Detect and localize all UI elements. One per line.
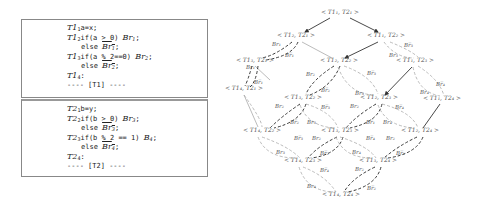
state-node: < T1₃, T2₁ > <box>236 56 274 63</box>
state-node: < T1₄, T2₁ > <box>225 84 263 91</box>
branch-label: Br₄ <box>419 89 429 95</box>
branch-label: Br̅₃ <box>293 135 303 141</box>
branch-label: Br₄ <box>351 149 361 155</box>
branch-label: Br̅₁ <box>365 119 375 125</box>
branch-label: Br₄ <box>306 183 316 189</box>
state-node: < T1₁, T2₃ > <box>396 56 434 63</box>
branch-label: Br₃ <box>388 52 398 58</box>
state-node: < T1₂, T2₄ > <box>401 126 439 133</box>
branch-label: Br₃ <box>275 149 285 155</box>
state-node: < T1₂, T2₁ > <box>277 31 315 38</box>
branch-label: Br̅₃ <box>320 104 330 110</box>
state-node: < T1₃, T2₂ > <box>284 93 322 100</box>
branch-label: Br̅₄ <box>394 104 404 110</box>
state-node: < T1₃, T2₃ > <box>321 126 359 133</box>
branch-label: Br̅₁ <box>253 79 263 85</box>
branch-label: Br₃ <box>306 119 316 125</box>
branch-label: Br₂ <box>311 135 321 141</box>
branch-label: Br̅₃ <box>366 70 376 76</box>
graph-edge-labels: Br₁Br̅₁Br̅₃Br₃Br₁Br̅₁Br₂Br̅₂Br̅₃Br₃Br̅₄B… <box>245 41 445 191</box>
graph-nodes: < T1₁, T2₁ >< T1₂, T2₁ >< T1₁, T2₂ >< T1… <box>225 8 461 197</box>
branch-label: Br₂ <box>305 71 315 77</box>
branch-label: Br̅₄ <box>435 81 445 87</box>
state-node: < T1₁, T2₁ > <box>321 8 359 15</box>
branch-label: Br₃ <box>354 90 364 96</box>
state-node: < T1₂, T2₂ > <box>320 56 358 63</box>
branch-label: Br̅₄ <box>319 167 329 173</box>
branch-label: Br̅₁ <box>284 52 294 58</box>
branch-label: Br̅₂ <box>366 185 376 191</box>
branch-label: Br₂ <box>349 103 359 109</box>
state-node: < T1₁, T2₄ > <box>423 94 461 101</box>
state-node: < T1₄, T2₄ > <box>322 190 360 197</box>
state-node: < T1₄, T2₂ > <box>243 126 281 133</box>
branch-label: Br₁ <box>245 64 255 70</box>
branch-label: Br̅₄ <box>365 135 375 141</box>
state-node: < T1₃, T2₄ > <box>359 156 397 163</box>
interleaving-state-graph: < T1₁, T2₁ >< T1₂, T2₁ >< T1₁, T2₂ >< T1… <box>0 0 480 204</box>
branch-label: Br̅₂ <box>320 87 330 93</box>
branch-label: Br̅₂ <box>289 119 299 125</box>
branch-label: Br₁ <box>271 41 281 47</box>
branch-label: Br̅₃ <box>403 42 413 48</box>
branch-label: Br̅₂ <box>319 150 329 156</box>
state-node: < T1₂, T2₃ > <box>360 93 398 100</box>
branch-label: Br₂ <box>274 103 284 109</box>
branch-label: Br₄ <box>382 119 392 125</box>
branch-label: Br₂ <box>354 166 364 172</box>
branch-label: Br̅₁ <box>395 150 405 156</box>
state-node: < T1₁, T2₂ > <box>367 31 405 38</box>
state-node: < T1₄, T2₃ > <box>284 156 322 163</box>
branch-label: Br₂ <box>385 135 395 141</box>
